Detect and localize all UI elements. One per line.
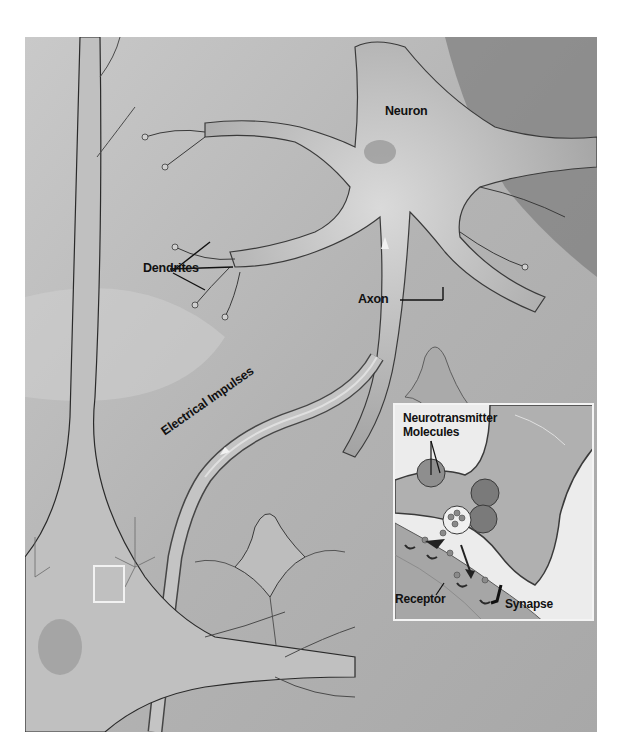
label-neuron: Neuron <box>385 105 428 119</box>
label-neurotransmitter-molecules-line1: Neurotransmitter <box>403 412 497 425</box>
label-receptor: Receptor <box>395 593 445 606</box>
neuron-illustration: Neuron Dendrites Axon Electrical Impulse… <box>25 37 597 732</box>
synapse-inset: Neurotransmitter Molecules Receptor Syna… <box>393 403 594 621</box>
zoom-region-marker <box>93 565 125 603</box>
neuron-artwork <box>25 37 597 732</box>
label-axon: Axon <box>358 293 388 307</box>
label-neurotransmitter-molecules-line2: Molecules <box>403 426 459 439</box>
label-dendrites: Dendrites <box>143 262 199 276</box>
label-synapse: Synapse <box>505 598 553 611</box>
